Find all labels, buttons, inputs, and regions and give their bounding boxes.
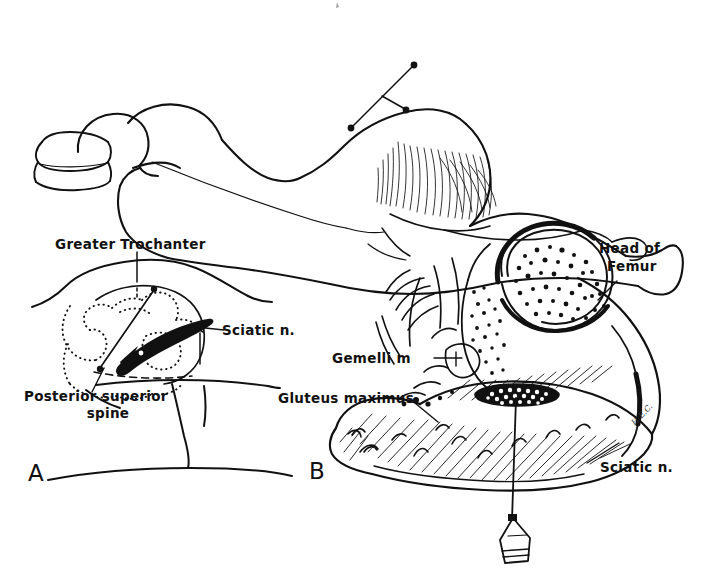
- buttock-hatching: [377, 142, 496, 219]
- leader-gemelli: [434, 352, 462, 366]
- syringe-hub: [500, 518, 530, 563]
- illustration-artwork: [0, 0, 715, 574]
- label-head-of-femur-line1: Head of: [599, 240, 660, 256]
- nerve-highlight-a: [139, 351, 144, 356]
- label-sciatic-nerve-b: Sciatic n.: [600, 459, 673, 475]
- panel-letter-b: B: [309, 458, 325, 484]
- needle-hub-block: [508, 514, 517, 521]
- label-gluteus-maximus: Gluteus maximus: [278, 390, 414, 406]
- label-greater-trochanter: Greater Trochanter: [55, 236, 206, 252]
- patient-figure: [78, 104, 683, 294]
- ink-artifact: [336, 2, 339, 8]
- bone-outline-dotted: [63, 293, 200, 399]
- label-sciatic-nerve-a: Sciatic n.: [222, 322, 295, 338]
- pillow: [34, 132, 111, 190]
- panel-a-art: [32, 252, 292, 480]
- sciatic-nerve-section-b: [475, 384, 559, 406]
- label-head-of-femur-line2: Femur: [607, 258, 657, 274]
- landmark-dashed-line: [94, 372, 192, 378]
- figure-canvas: Greater Trochanter Sciatic n. Posterior …: [0, 0, 715, 574]
- label-posterior-superior-spine-line2: spine: [24, 405, 192, 421]
- acetabulum: [462, 244, 518, 395]
- gemelli-muscles: [400, 328, 480, 398]
- label-posterior-superior-spine-line1: Posterior superior: [24, 388, 168, 404]
- panel-letter-a: A: [28, 460, 44, 486]
- label-gemelli-muscle: Gemelli m: [332, 350, 411, 366]
- landmark-line-top: [352, 66, 413, 127]
